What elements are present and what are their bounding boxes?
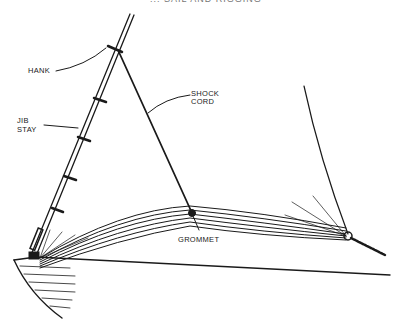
shock-cord [118, 50, 192, 213]
deck-line [14, 257, 390, 275]
grommet-label: GROMMET [178, 235, 219, 244]
jib-stay-arrow [44, 125, 78, 128]
hank-arrow [56, 48, 106, 71]
bow-hull [14, 260, 75, 318]
shock-cord-arrow [148, 95, 190, 113]
jib-stay-label-1: JIB [17, 116, 29, 125]
sheet-line [351, 238, 385, 255]
jib-rigging-illustration [0, 0, 399, 327]
shock-cord-label-2: CORD [191, 97, 214, 106]
stem-fitting [29, 252, 39, 259]
jib-stay-label-2: STAY [17, 125, 37, 134]
hank-label: HANK [28, 66, 50, 75]
